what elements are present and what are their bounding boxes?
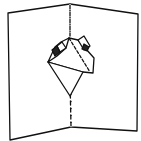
popup-card-diagram: Pop-up card illustration — [0, 0, 141, 141]
popup-card-drawing — [0, 0, 141, 141]
